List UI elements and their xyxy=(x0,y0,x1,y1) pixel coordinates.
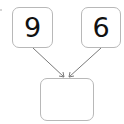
arrow-right-icon xyxy=(69,48,101,77)
arrow-left-icon xyxy=(33,48,64,77)
result-box[interactable] xyxy=(40,78,94,121)
